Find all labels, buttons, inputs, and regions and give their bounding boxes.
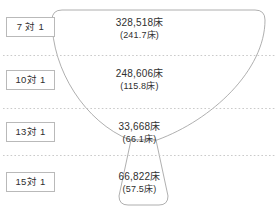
tier-value-group-0: 328,518床 (241.7床) xyxy=(0,18,279,40)
tier-value-sub-2: (66.1床) xyxy=(0,135,279,144)
tier-value-group-1: 248,606床 (115.8床) xyxy=(0,69,279,91)
tier-value-sub-1: (115.8床) xyxy=(0,82,279,91)
tier-value-sub-0: (241.7床) xyxy=(0,31,279,40)
funnel-diagram: 7 対 1 10対 1 13対 1 15対 1 328,518床 (241.7床… xyxy=(0,0,279,213)
tier-value-main-0: 328,518床 xyxy=(0,18,279,29)
tier-value-sub-3: (57.5床) xyxy=(0,185,279,194)
tier-value-main-1: 248,606床 xyxy=(0,69,279,80)
tier-value-group-2: 33,668床 (66.1床) xyxy=(0,122,279,144)
tier-value-group-3: 66,822床 (57.5床) xyxy=(0,172,279,194)
tier-value-main-2: 33,668床 xyxy=(0,122,279,133)
tier-value-main-3: 66,822床 xyxy=(0,172,279,183)
